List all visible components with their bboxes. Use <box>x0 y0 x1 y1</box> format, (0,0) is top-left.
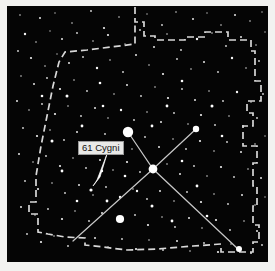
field-star <box>71 22 73 24</box>
bright-star <box>123 127 133 137</box>
field-star <box>190 68 192 70</box>
field-star <box>194 99 196 101</box>
field-star <box>59 165 61 167</box>
field-star <box>262 93 264 95</box>
field-star <box>261 11 262 12</box>
field-star <box>72 157 74 159</box>
field-star <box>146 111 148 113</box>
field-star <box>174 226 176 228</box>
field-star <box>49 129 51 131</box>
field-star <box>136 190 138 192</box>
field-star <box>107 34 109 36</box>
field-star <box>24 33 26 35</box>
field-star <box>196 185 199 188</box>
field-star <box>96 67 98 69</box>
sky-background <box>7 6 268 262</box>
field-star <box>112 169 114 171</box>
field-star <box>81 125 84 128</box>
field-star <box>39 17 41 19</box>
field-star <box>180 49 182 51</box>
field-star <box>173 112 175 114</box>
field-star <box>40 241 42 243</box>
field-star <box>22 127 24 129</box>
field-star <box>113 93 115 95</box>
field-star <box>134 214 136 216</box>
field-star <box>36 135 38 137</box>
bright-star <box>193 126 199 132</box>
field-star <box>35 41 37 43</box>
field-star <box>247 168 249 170</box>
field-star <box>109 59 111 61</box>
field-star <box>215 219 217 221</box>
field-star <box>24 180 26 182</box>
field-star <box>37 188 39 190</box>
field-star <box>76 131 78 133</box>
field-star <box>76 200 79 203</box>
field-star <box>148 239 150 241</box>
field-star <box>146 198 148 200</box>
field-star <box>26 233 28 235</box>
field-star <box>51 140 54 143</box>
field-star <box>200 114 202 116</box>
field-star <box>213 193 215 195</box>
field-star <box>148 64 150 66</box>
field-star <box>176 240 178 242</box>
field-star <box>173 200 175 202</box>
field-star <box>17 50 19 52</box>
field-star <box>132 188 134 190</box>
field-star <box>140 95 142 97</box>
field-star <box>61 170 64 173</box>
field-star <box>118 16 120 18</box>
field-star <box>45 155 47 157</box>
field-star <box>254 143 256 145</box>
bright-star <box>89 188 92 191</box>
field-star <box>102 105 105 108</box>
field-star <box>243 220 245 222</box>
field-star <box>187 123 189 125</box>
field-star <box>264 31 265 32</box>
field-star <box>135 54 137 56</box>
field-star <box>56 53 57 54</box>
field-star <box>233 176 235 178</box>
field-star <box>126 84 128 86</box>
field-star <box>176 58 178 60</box>
field-star <box>103 27 105 29</box>
field-star <box>188 217 190 219</box>
field-star <box>249 20 251 22</box>
sky-field: 61 Cygni <box>7 6 268 262</box>
field-star <box>131 148 133 150</box>
field-star <box>33 83 35 85</box>
field-star <box>41 95 44 98</box>
field-star <box>227 203 229 205</box>
field-star <box>211 105 214 108</box>
field-star <box>160 121 162 123</box>
field-star <box>229 229 231 231</box>
bright-star <box>236 246 242 252</box>
field-star <box>47 208 49 210</box>
field-star <box>153 46 155 48</box>
field-star <box>20 75 22 77</box>
star-label-61-cygni: 61 Cygni <box>78 141 124 155</box>
field-star <box>85 167 87 169</box>
field-star <box>139 29 141 31</box>
field-star <box>151 125 154 128</box>
field-star <box>261 244 263 246</box>
field-star <box>231 57 233 59</box>
field-star <box>199 140 201 142</box>
field-star <box>121 238 123 240</box>
field-star <box>74 210 76 212</box>
field-star <box>225 45 227 47</box>
field-star <box>126 161 128 163</box>
field-star <box>256 117 258 119</box>
field-star <box>28 109 30 111</box>
field-star <box>256 230 258 232</box>
field-star <box>68 62 70 64</box>
field-star <box>82 56 84 58</box>
field-star <box>146 13 147 14</box>
field-star <box>203 61 205 63</box>
field-star <box>120 109 122 111</box>
field-star <box>240 151 242 153</box>
field-star <box>135 248 137 250</box>
field-star <box>19 14 21 16</box>
field-star <box>80 115 82 117</box>
